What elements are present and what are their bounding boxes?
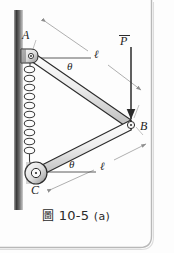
dimension-line-lower bbox=[34, 127, 146, 189]
label-angle-lower: θ bbox=[69, 158, 74, 170]
label-length-lower: ℓ bbox=[100, 160, 105, 172]
figure-caption: 圖 10-5 (a) bbox=[0, 206, 152, 223]
link-A-B[interactable] bbox=[31, 51, 131, 130]
label-joint-b: B bbox=[140, 119, 147, 134]
link-C-B[interactable] bbox=[36, 120, 131, 178]
caption-number: 10-5 bbox=[59, 208, 90, 223]
figure-container: A B C P ℓ ℓ θ θ 圖 10-5 (a) bbox=[0, 0, 174, 253]
pin-joint-A[interactable] bbox=[21, 49, 38, 63]
label-angle-upper: θ bbox=[67, 60, 72, 72]
label-force-p: P bbox=[120, 34, 127, 49]
pin-joint-B[interactable] bbox=[127, 121, 134, 128]
caption-symbol: 圖 bbox=[42, 209, 54, 223]
label-joint-a: A bbox=[22, 28, 29, 43]
label-length-upper: ℓ bbox=[94, 48, 99, 60]
coil-spring bbox=[24, 60, 34, 167]
pin-joint-C[interactable] bbox=[25, 162, 47, 184]
caption-suffix: (a) bbox=[94, 210, 110, 223]
label-joint-c: C bbox=[31, 183, 39, 198]
